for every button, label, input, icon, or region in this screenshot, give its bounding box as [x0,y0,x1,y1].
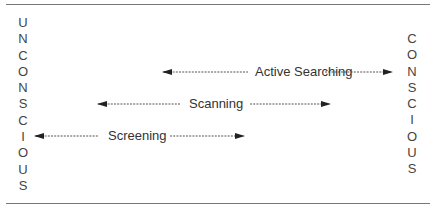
scanning-label: Scanning [189,96,243,111]
active-searching-label: Active Searching [255,64,353,79]
screening-label: Screening [108,128,167,143]
